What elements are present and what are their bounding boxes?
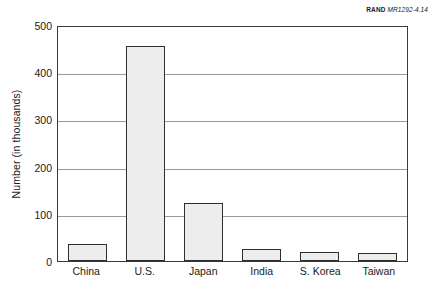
bar-slot [233,27,291,261]
x-tick-label: Taiwan [350,266,408,278]
bar-u-s [126,46,165,261]
bar-s-korea [300,252,339,261]
bar-slot [349,27,407,261]
rand-credit-line: RANDMR1292-4.14 [366,7,428,14]
x-tick-label: Japan [174,266,232,278]
bar-india [242,249,281,261]
x-axis-tick-labels: ChinaU.S.JapanIndiaS. KoreaTaiwan [57,266,408,278]
y-axis-title-text: Number (in thousands) [10,90,22,199]
plot-area [57,26,408,262]
x-tick-label: S. Korea [291,266,349,278]
y-tick-label: 200 [22,162,52,173]
bar-china [68,244,107,261]
rand-document-number: MR1292-4.14 [388,6,428,13]
x-tick-label: India [233,266,291,278]
bar-series [58,27,407,261]
bar-taiwan [358,253,397,261]
y-tick-label: 400 [22,68,52,79]
y-tick-label: 0 [22,257,52,268]
y-tick-label: 300 [22,115,52,126]
bar-chart-figure: RANDMR1292-4.14 Number (in thousands) 01… [0,0,440,295]
bar-slot [58,27,116,261]
y-tick-label: 100 [22,210,52,221]
y-axis-tick-labels: 0100200300400500 [22,20,52,270]
rand-brand-label: RAND [366,6,385,13]
y-tick-label: 500 [22,21,52,32]
bar-slot [116,27,174,261]
x-tick-label: U.S. [116,266,174,278]
bar-japan [184,203,223,261]
y-axis-title: Number (in thousands) [9,26,23,262]
bar-slot [291,27,349,261]
bar-slot [174,27,232,261]
x-tick-label: China [57,266,115,278]
